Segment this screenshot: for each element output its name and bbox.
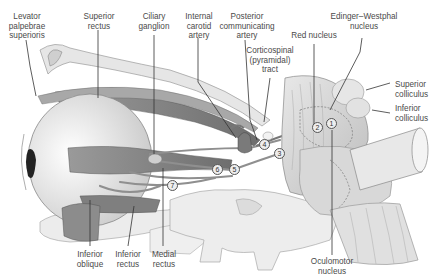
label-red-nucleus: Red nucleus [287, 31, 341, 41]
inferior-colliculus [346, 98, 370, 118]
marker-3: 3 [274, 148, 285, 159]
label-superior-rectus: Superior rectus [80, 12, 118, 31]
marker-2: 2 [312, 122, 323, 133]
label-oculomotor-nucleus: Oculomotor nucleus [304, 257, 360, 276]
label-posterior-communicating-artery: Posterior communicating artery [219, 12, 275, 41]
label-corticospinal-tract: Corticospinal (pyramidal) tract [245, 46, 295, 75]
label-ciliary-ganglion: Ciliary ganglion [135, 12, 173, 31]
label-internal-carotid-artery: Internal carotid artery [182, 12, 216, 41]
internal-carotid-artery [238, 132, 252, 153]
label-edinger-westphal-nucleus: Edinger–Westphal nucleus [328, 12, 400, 31]
anatomy-figure: 1 2 3 4 5 6 7 Levator palpebrae superior… [0, 0, 435, 277]
inferior-oblique-muscle [62, 203, 100, 241]
ciliary-ganglion [148, 154, 162, 164]
label-superior-colliculus: Superior colliculus [395, 80, 435, 99]
marker-4: 4 [259, 139, 270, 150]
marker-7: 7 [167, 180, 178, 191]
anatomy-illustration [0, 0, 435, 277]
label-inferior-rectus: Inferior rectus [110, 250, 146, 269]
marker-1: 1 [326, 118, 337, 129]
label-levator-palpebrae-superioris: Levator palpebrae superioris [6, 12, 48, 41]
marker-5: 5 [229, 164, 240, 175]
label-inferior-oblique: Inferior oblique [72, 250, 108, 269]
label-medial-rectus: Medial rectus [146, 250, 182, 269]
label-inferior-colliculus: Inferior colliculus [395, 104, 435, 123]
marker-6: 6 [212, 164, 223, 175]
medulla [330, 203, 418, 265]
